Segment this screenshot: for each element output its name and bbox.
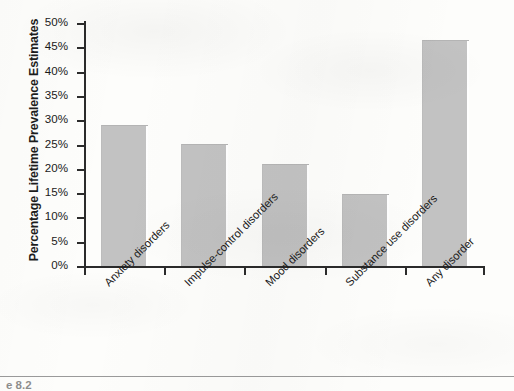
y-axis-tick: 45%: [77, 47, 84, 49]
y-axis-tick: 10%: [77, 217, 84, 219]
y-axis-tick: 25%: [77, 145, 84, 147]
y-axis-tick-label: 45%: [24, 39, 68, 52]
y-axis-tick-label: 5%: [24, 234, 68, 247]
y-axis-tick-label: 10%: [24, 209, 68, 222]
y-axis-tick: 35%: [77, 96, 84, 98]
figure-caption: e 8.2: [6, 379, 32, 391]
y-axis-tick-label: 30%: [24, 112, 68, 125]
y-axis-tick-label: 0%: [24, 258, 68, 271]
y-axis-tick-label: 35%: [24, 88, 68, 101]
y-axis-tick: 5%: [77, 242, 84, 244]
x-axis-tick: [164, 268, 166, 275]
x-axis-tick: [244, 268, 246, 275]
y-axis-tick-label: 40%: [24, 64, 68, 77]
y-axis-tick: 40%: [77, 72, 84, 74]
footer-divider: [0, 376, 514, 377]
x-axis-tick: [325, 268, 327, 275]
y-axis-tick-label: 20%: [24, 161, 68, 174]
x-axis-tick: [84, 268, 86, 275]
y-axis-tick: 50%: [77, 23, 84, 25]
plot-area: 50%45%40%35%30%25%20%15%10%5%0% Anxiety …: [84, 18, 486, 268]
x-axis-tick: [483, 268, 485, 275]
y-axis-tick-label: 25%: [24, 137, 68, 150]
y-axis-tick-label: 50%: [24, 15, 68, 28]
y-axis-tick: 0%: [77, 266, 84, 268]
x-axis-tick: [405, 268, 407, 275]
y-axis-tick: 30%: [77, 120, 84, 122]
bar: [422, 40, 469, 267]
y-axis-tick: 20%: [77, 169, 84, 171]
y-axis-tick: 15%: [77, 193, 84, 195]
y-axis-line: [84, 21, 86, 268]
bar-chart-figure: Percentage Lifetime Prevalence Estimates…: [0, 0, 514, 391]
y-axis-tick-label: 15%: [24, 185, 68, 198]
